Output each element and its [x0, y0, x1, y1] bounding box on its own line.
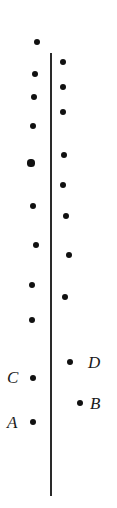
- data-point: [27, 159, 34, 166]
- data-point: [60, 84, 66, 90]
- point-label-a: A: [7, 414, 17, 431]
- data-point: [30, 123, 37, 130]
- data-point: [32, 71, 39, 78]
- point-label-c: C: [7, 369, 18, 386]
- data-point-d: [67, 359, 74, 366]
- vertical-reference-line: [50, 53, 52, 496]
- data-point: [63, 213, 70, 220]
- data-point: [60, 182, 66, 188]
- data-point-a: [30, 419, 37, 426]
- data-point: [60, 59, 67, 66]
- scatter-figure: CADB: [0, 0, 117, 508]
- data-point: [66, 252, 72, 258]
- data-point: [31, 94, 38, 101]
- data-point: [29, 317, 36, 324]
- data-point: [60, 109, 67, 116]
- point-label-d: D: [88, 354, 100, 371]
- data-point-b: [77, 400, 83, 406]
- data-point: [29, 282, 36, 289]
- data-point: [33, 242, 40, 249]
- data-point: [34, 39, 41, 46]
- data-point: [30, 203, 37, 210]
- data-point-c: [30, 375, 37, 382]
- data-point: [62, 294, 69, 301]
- data-point: [61, 152, 68, 159]
- point-label-b: B: [90, 395, 100, 412]
